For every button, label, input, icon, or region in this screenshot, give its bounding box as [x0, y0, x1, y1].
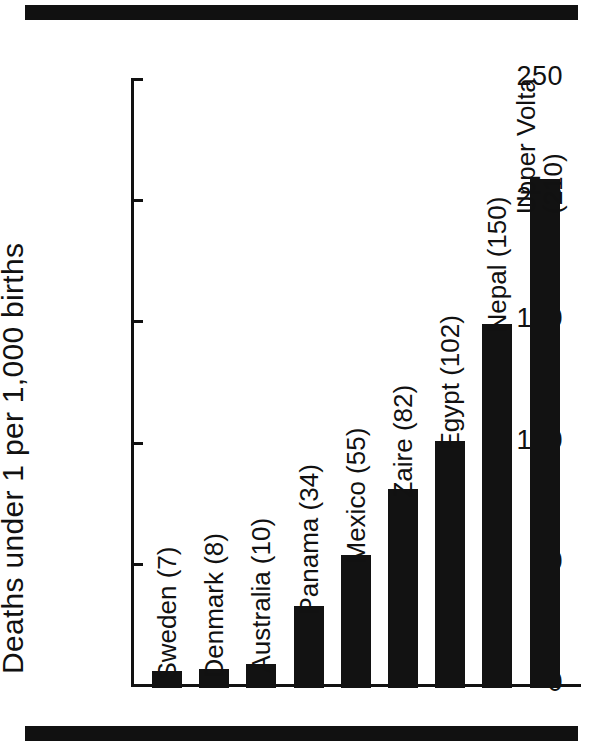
bar-egypt	[435, 441, 465, 688]
plot-area: 050100150200250 Sweden (7)Denmark (8)Aus…	[131, 78, 581, 691]
y-tick-150	[131, 320, 143, 323]
bar-label-sweden: Sweden (7)	[154, 547, 181, 680]
infant-mortality-bar-chart: Deaths under 1 per 1,000 births 05010015…	[0, 0, 598, 751]
y-tick-0	[131, 684, 143, 687]
bar-label-zaire: Zaire (82)	[390, 385, 417, 498]
y-axis-title-holder: Deaths under 1 per 1,000 births	[8, 640, 48, 641]
bar-zaire	[388, 489, 418, 688]
y-tick-100	[131, 442, 143, 445]
top-divider-rule	[25, 5, 578, 20]
y-tick-250	[131, 78, 143, 81]
y-axis-title: Deaths under 1 per 1,000 births	[0, 243, 30, 674]
bar-mexico	[341, 555, 371, 688]
y-tick-200	[131, 199, 143, 202]
bar-upper-volta	[530, 179, 560, 688]
bar-nepal	[482, 324, 512, 688]
bar-label-egypt: Egypt (102)	[438, 315, 465, 449]
bar-label-australia: Australia (10)	[249, 518, 276, 673]
bar-label-denmark: Denmark (8)	[202, 533, 229, 677]
bar-label-nepal: Nepal (150)	[485, 197, 512, 333]
bottom-divider-rule	[25, 726, 578, 741]
bar-label-upper-volta: Upper Volta (210)	[513, 78, 566, 214]
bar-label-mexico: Mexico (55)	[343, 427, 370, 563]
y-tick-50	[131, 563, 143, 566]
y-axis-line	[131, 78, 134, 687]
bar-panama	[294, 606, 324, 688]
bar-label-panama: Panama (34)	[296, 464, 323, 614]
